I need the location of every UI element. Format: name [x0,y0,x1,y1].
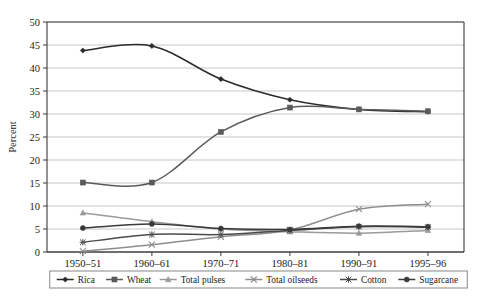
legend-marker-square-icon [112,277,117,282]
legend-marker-asterisk-icon [345,276,351,282]
y-tick-label: 15 [30,178,41,189]
y-axis: 05101520253035404550 [30,17,48,258]
legend-label: Rica [78,275,95,285]
series-layer [80,43,431,254]
series-total-oilseeds [80,201,431,254]
x-tick-label: 1995–96 [410,258,447,269]
y-tick-label: 50 [30,17,41,28]
series-total-pulses [80,210,431,235]
x-tick-label: 1960–61 [134,258,171,269]
legend-label: Total pulses [181,275,226,285]
legend-label: Sugarcane [419,275,458,285]
series-wheat [80,105,430,186]
y-axis-title: Percent [7,121,18,153]
x-axis: 1950–511960–611970–711980–811990–911995–… [64,252,446,269]
legend-label: Total oilseeds [266,275,318,285]
legend-label: Cotton [361,275,387,285]
x-tick-label: 1980–81 [272,258,309,269]
y-tick-label: 25 [30,132,41,143]
legend-label: Wheat [127,275,152,285]
y-tick-label: 0 [35,247,40,258]
line-chart: 05101520253035404550Percent1950–511960–6… [0,0,487,305]
legend: RicaWheatTotal pulsesTotal oilseedsCotto… [50,271,468,288]
chart-container: 05101520253035404550Percent1950–511960–6… [0,0,487,305]
y-tick-label: 35 [30,86,41,97]
gridlines [47,22,464,252]
x-tick-label: 1970–71 [203,258,240,269]
x-tick-label: 1990–91 [341,258,378,269]
series-rica [80,43,430,114]
y-tick-label: 40 [30,63,41,74]
y-tick-label: 10 [30,201,41,212]
y-tick-label: 5 [35,224,40,235]
x-tick-label: 1950–51 [64,258,101,269]
legend-marker-circle-icon [404,277,409,282]
y-tick-label: 30 [30,109,41,120]
y-tick-label: 20 [30,155,41,166]
y-tick-label: 45 [30,40,41,51]
